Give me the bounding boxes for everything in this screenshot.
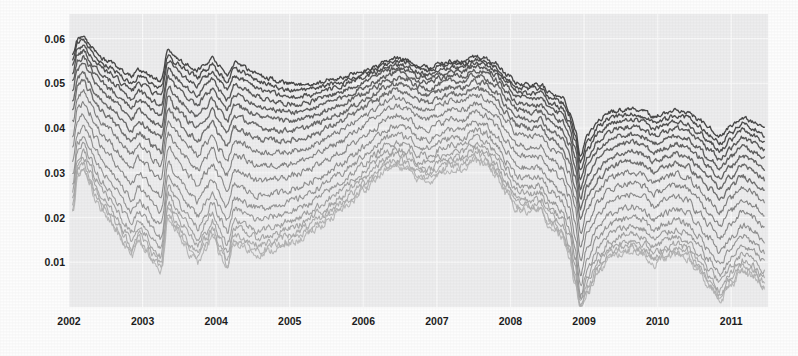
y-axis-tick-label: 0.04 bbox=[23, 123, 65, 134]
y-axis-tick-label: 0.05 bbox=[23, 78, 65, 89]
y-axis: 0.010.020.030.040.050.06 bbox=[20, 0, 65, 356]
plot-panel bbox=[69, 14, 768, 307]
gridlines bbox=[69, 14, 768, 307]
y-axis-tick-label: 0.03 bbox=[23, 168, 65, 179]
x-axis-tick-label: 2003 bbox=[113, 316, 173, 327]
series-line bbox=[73, 72, 765, 210]
series-line bbox=[73, 146, 765, 300]
y-axis-tick-label: 0.02 bbox=[23, 213, 65, 224]
y-axis-tick-label: 0.01 bbox=[23, 257, 65, 268]
x-axis-tick-label: 2008 bbox=[480, 316, 540, 327]
series-line bbox=[73, 90, 765, 234]
x-axis-tick-label: 2009 bbox=[554, 316, 614, 327]
x-axis-tick-label: 2011 bbox=[701, 316, 761, 327]
x-axis-tick-label: 2007 bbox=[407, 316, 467, 327]
series-lines bbox=[73, 36, 765, 306]
x-axis-tick-label: 2010 bbox=[628, 316, 688, 327]
x-axis-tick-label: 2005 bbox=[260, 316, 320, 327]
x-axis-tick-label: 2004 bbox=[186, 316, 246, 327]
x-axis: 2002200320042005200620072008200920102011 bbox=[0, 316, 798, 336]
line-chart-svg bbox=[69, 14, 768, 307]
x-axis-tick-label: 2002 bbox=[39, 316, 99, 327]
y-axis-tick-label: 0.06 bbox=[23, 34, 65, 45]
x-axis-tick-label: 2006 bbox=[333, 316, 393, 327]
figure-canvas: 0.010.020.030.040.050.06 200220032004200… bbox=[0, 0, 798, 356]
